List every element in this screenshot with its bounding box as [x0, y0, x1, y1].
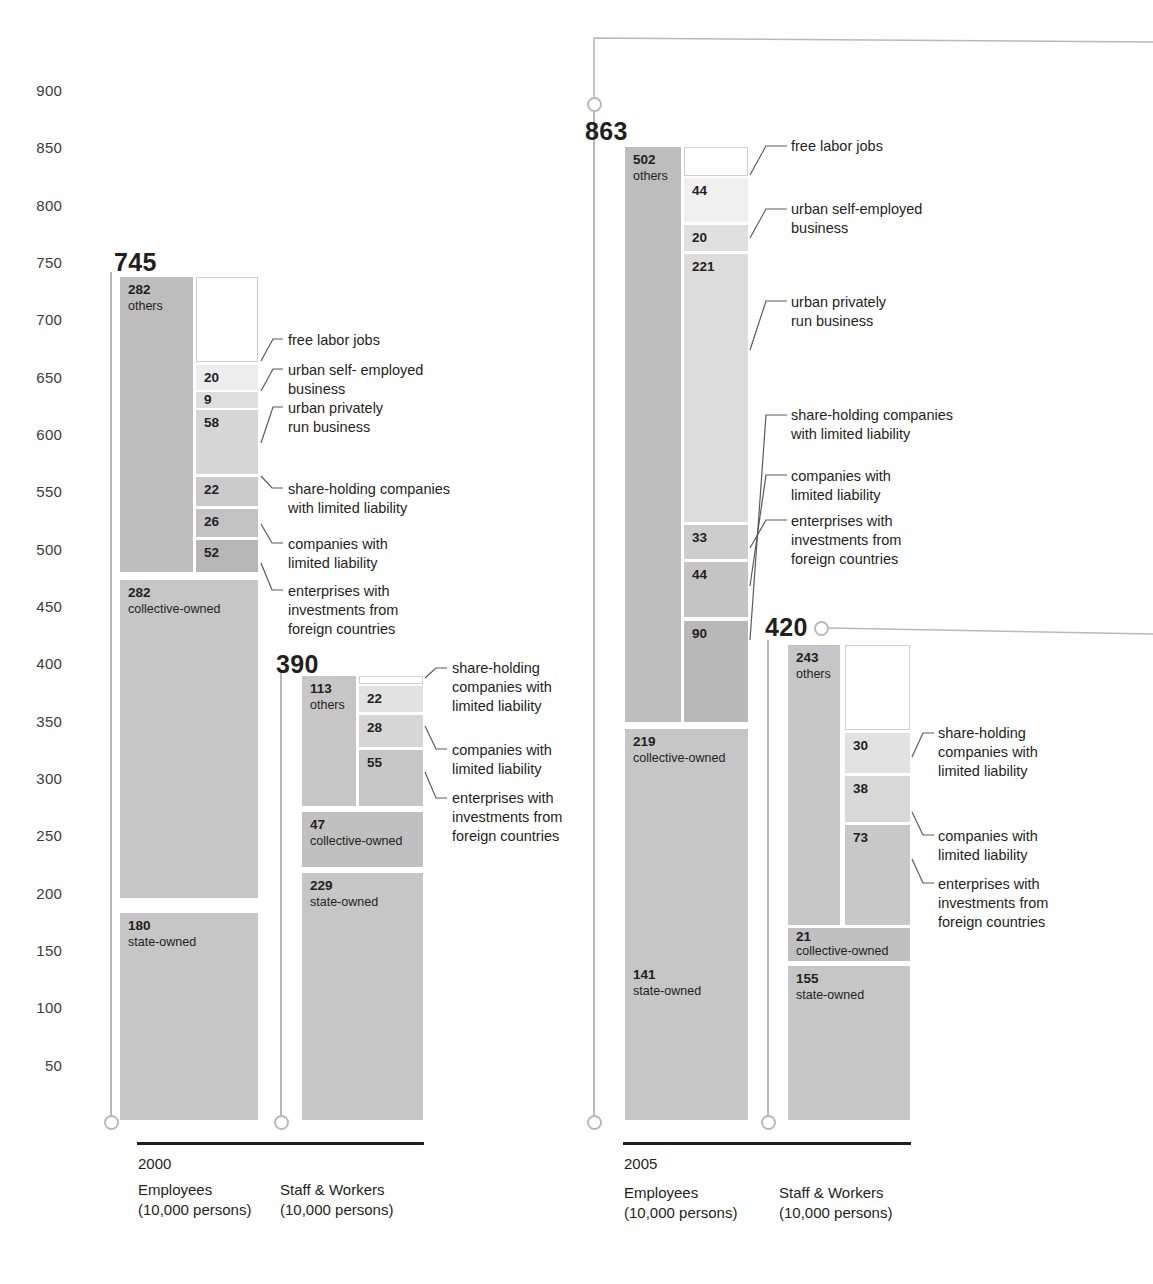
y-axis-tick-300: 300	[16, 770, 62, 787]
bar-2000-employees-free-labor	[196, 277, 258, 362]
bar-2000-staff-free-labor	[359, 676, 423, 684]
bar-2000-employees-limited-liability: 22	[196, 477, 258, 506]
segment-name: state-owned	[796, 988, 864, 1004]
bar-2005-employees-others: 502 others	[625, 147, 681, 722]
y-axis-tick-700: 700	[16, 311, 62, 328]
segment-value: 33	[692, 530, 707, 547]
group-caption-2005-staff: Staff & Workers (10,000 persons)	[779, 1183, 892, 1224]
segment-value: 20	[692, 230, 707, 247]
callout-2005-urban-private: urban privately run business	[791, 293, 886, 331]
ring-2000-staff	[274, 1115, 289, 1130]
bar-2000-staff-limited-liability: 28	[359, 715, 423, 747]
total-2005-employees: 863	[585, 117, 628, 146]
callout-2000-urban-self-employed: urban self- employed business	[288, 361, 423, 399]
segment-value: 44	[692, 183, 707, 200]
bar-2005-staff-others: 243 others	[788, 645, 840, 925]
y-axis-tick-150: 150	[16, 942, 62, 959]
segment-value: 20	[204, 370, 219, 387]
bar-2005-employees-foreign: 44	[684, 562, 748, 617]
segment-value: 221	[692, 259, 715, 276]
segment-value: 219	[633, 734, 656, 751]
bar-2000-employees-private: 9	[196, 392, 258, 408]
bar-2000-employees-self-employed: 20	[196, 365, 258, 390]
bar-2005-staff-collective: 21 collective-owned	[788, 928, 910, 961]
group-caption-2000-employees: Employees (10,000 persons)	[138, 1180, 251, 1221]
group-rule-2000	[137, 1142, 424, 1145]
y-axis-tick-250: 250	[16, 827, 62, 844]
y-axis-tick-200: 200	[16, 884, 62, 901]
callout-2005-staff-foreign: enterprises with investments from foreig…	[938, 875, 1048, 932]
bar-2000-employees-state: 180 state-owned	[120, 913, 258, 1120]
callout-2005-urban-self-employed: urban self-employed business	[791, 200, 922, 238]
segment-value: 22	[367, 691, 382, 708]
bar-2000-employees-foreign: 26	[196, 509, 258, 537]
ring-2005-employees	[587, 1115, 602, 1130]
bar-2005-employees-private: 20	[684, 225, 748, 251]
segment-name: collective-owned	[796, 944, 888, 960]
stem-2000-staff	[280, 672, 282, 1120]
segment-value: 141	[633, 967, 656, 984]
callout-2000-foreign: enterprises with investments from foreig…	[288, 582, 398, 639]
total-2005-staff: 420	[765, 613, 808, 642]
segment-value: 52	[204, 545, 219, 562]
callout-2000-staff-share-holding: share-holding companies with limited lia…	[452, 659, 552, 716]
segment-value: 55	[367, 755, 382, 772]
bar-2000-staff-others: 113 others	[302, 676, 356, 806]
group-caption-2000-staff: Staff & Workers (10,000 persons)	[280, 1180, 393, 1221]
callout-2005-share-holding: share-holding companies with limited lia…	[791, 406, 953, 444]
bar-2005-staff-foreign: 73	[845, 825, 910, 925]
bar-2005-employees-free-labor	[684, 147, 748, 176]
segment-name: collective-owned	[128, 602, 220, 618]
segment-value: 38	[853, 781, 868, 798]
callout-2000-staff-foreign: enterprises with investments from foreig…	[452, 789, 562, 846]
y-axis-tick-800: 800	[16, 196, 62, 213]
segment-name: state-owned	[310, 895, 378, 911]
y-axis-tick-650: 650	[16, 368, 62, 385]
segment-value: 229	[310, 878, 333, 895]
y-axis-tick-900: 900	[16, 82, 62, 99]
bar-2005-employees-self-employed: 44	[684, 178, 748, 222]
segment-value: 243	[796, 650, 819, 667]
y-axis-tick-750: 750	[16, 254, 62, 271]
group-year-2005: 2005	[624, 1155, 657, 1172]
y-axis-tick-100: 100	[16, 999, 62, 1016]
y-axis-tick-850: 850	[16, 139, 62, 156]
segment-value: 26	[204, 514, 219, 531]
bar-2005-employees-share-holding: 221	[684, 254, 748, 522]
bar-2005-staff-limited-liability: 38	[845, 776, 910, 822]
bar-2005-employees-limited-liability: 33	[684, 525, 748, 559]
callout-2005-staff-limited-liability: companies with limited liability	[938, 827, 1038, 865]
segment-name: others	[633, 169, 668, 185]
segment-name: collective-owned	[633, 751, 725, 767]
bar-2000-staff-foreign: 55	[359, 750, 423, 806]
segment-value: 73	[853, 830, 868, 847]
segment-value: 9	[204, 392, 212, 408]
ring-2005-staff	[761, 1115, 776, 1130]
callout-2000-staff-limited-liability: companies with limited liability	[452, 741, 552, 779]
segment-value: 282	[128, 282, 151, 299]
stem-2000-employees	[110, 272, 112, 1120]
bar-2005-employees-collective: 219 collective-owned	[625, 729, 748, 974]
ring-2000-employees	[104, 1115, 119, 1130]
segment-name: state-owned	[633, 984, 701, 1000]
total-2000-staff: 390	[276, 650, 319, 679]
y-axis-tick-550: 550	[16, 483, 62, 500]
bar-2000-staff-collective: 47 collective-owned	[302, 812, 423, 867]
callout-2000-share-holding: share-holding companies with limited lia…	[288, 480, 450, 518]
segment-value: 58	[204, 415, 219, 432]
bar-2000-employees-others: 282 others	[120, 277, 193, 572]
segment-name: others	[128, 299, 163, 315]
group-caption-2005-employees: Employees (10,000 persons)	[624, 1183, 737, 1224]
callout-2000-urban-private: urban privately run business	[288, 399, 383, 437]
callout-2000-free-labor-jobs: free labor jobs	[288, 331, 380, 350]
segment-value: 47	[310, 817, 325, 834]
callout-2005-foreign: enterprises with investments from foreig…	[791, 512, 901, 569]
total-2000-employees: 745	[114, 248, 157, 277]
segment-value: 28	[367, 720, 382, 737]
segment-value: 22	[204, 482, 219, 499]
segment-name: others	[310, 698, 345, 714]
stem-2005-employees	[593, 112, 595, 1120]
segment-value: 90	[692, 626, 707, 643]
bar-2000-employees-share-holding: 58	[196, 410, 258, 474]
bar-2000-staff-state: 229 state-owned	[302, 873, 423, 1120]
